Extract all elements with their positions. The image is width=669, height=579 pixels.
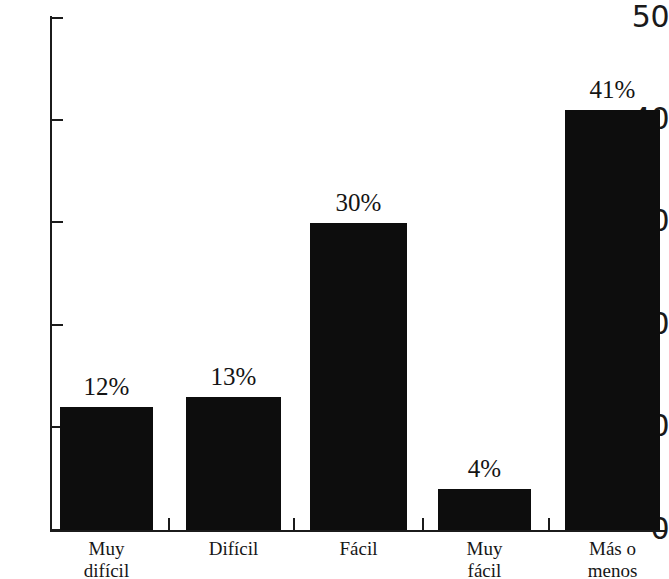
category-line-2: fácil	[434, 560, 535, 579]
x-axis-line	[50, 530, 665, 532]
y-axis-tick-20	[50, 324, 63, 326]
bar-value-mas-o-menos: 41%	[565, 77, 660, 102]
y-axis-label-50: 50	[627, 2, 669, 32]
x-axis-category-muy-facil: Muy fácil	[434, 538, 535, 579]
category-line-2: difícil	[56, 560, 157, 579]
x-axis-category-dificil: Difícil	[183, 538, 284, 560]
bar-muy-dificil[interactable]	[60, 407, 153, 530]
y-axis-tick-40	[50, 119, 63, 121]
bar-chart: 50 40 30 20 10 0 12% 13% 30% 4% 41% Muy …	[0, 0, 669, 579]
x-axis-tick-3	[422, 518, 424, 530]
bar-facil[interactable]	[310, 223, 407, 530]
category-line-1: Difícil	[183, 538, 284, 560]
bar-value-dificil: 13%	[186, 364, 281, 389]
bar-value-muy-dificil: 12%	[60, 374, 153, 399]
bar-dificil[interactable]	[186, 397, 281, 530]
x-axis-tick-2	[293, 518, 295, 530]
x-axis-category-facil: Fácil	[308, 538, 409, 560]
category-line-1: Muy	[56, 538, 157, 560]
bar-muy-facil[interactable]	[438, 489, 531, 530]
bar-mas-o-menos[interactable]	[565, 110, 660, 530]
category-line-1: Fácil	[308, 538, 409, 560]
y-axis-tick-30	[50, 221, 63, 223]
x-axis-category-mas-o-menos: Más o menos	[562, 538, 663, 579]
x-axis-category-muy-dificil: Muy difícil	[56, 538, 157, 579]
category-line-1: Muy	[434, 538, 535, 560]
x-axis-tick-4	[548, 518, 550, 530]
category-line-1: Más o	[562, 538, 663, 560]
y-axis-line	[50, 16, 52, 532]
x-axis-tick-1	[168, 518, 170, 530]
y-axis-tick-50	[50, 17, 63, 19]
category-line-2: menos	[562, 560, 663, 579]
bar-value-muy-facil: 4%	[438, 456, 531, 481]
bar-value-facil: 30%	[310, 190, 407, 215]
